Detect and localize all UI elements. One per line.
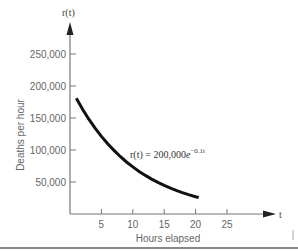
y-tick-label: 200,000	[30, 81, 67, 92]
decay-curve	[76, 98, 198, 197]
x-axis: t 510152025 Hours elapsed	[70, 209, 282, 244]
x-tick-label: 25	[221, 219, 233, 230]
y-tick-label: 150,000	[30, 113, 67, 124]
y-axis-arrow-icon	[67, 22, 74, 35]
chart: r(t) 50,000100,000150,000200,000250,000 …	[0, 0, 298, 251]
y-axis-variable: r(t)	[62, 7, 75, 19]
y-ticks: 50,000100,000150,000200,000250,000	[30, 49, 76, 188]
x-axis-variable: t	[279, 209, 282, 220]
y-tick-label: 250,000	[30, 49, 67, 60]
x-axis-arrow-icon	[263, 211, 276, 218]
equation-lhs: r(t) = 200,000	[130, 149, 186, 161]
y-axis-title: Deaths per hour	[15, 98, 26, 170]
equation-exponent: −0.1t	[190, 147, 205, 155]
x-tick-label: 10	[127, 219, 139, 230]
x-tick-label: 5	[99, 219, 105, 230]
x-tick-label: 20	[190, 219, 202, 230]
y-axis: r(t) 50,000100,000150,000200,000250,000 …	[15, 7, 76, 214]
y-tick-label: 50,000	[35, 177, 66, 188]
y-tick-label: 100,000	[30, 145, 67, 156]
x-axis-title: Hours elapsed	[136, 233, 200, 244]
x-ticks: 510152025	[99, 209, 233, 230]
x-tick-label: 15	[159, 219, 171, 230]
equation-annotation: r(t) = 200,000e−0.1t	[130, 147, 205, 161]
